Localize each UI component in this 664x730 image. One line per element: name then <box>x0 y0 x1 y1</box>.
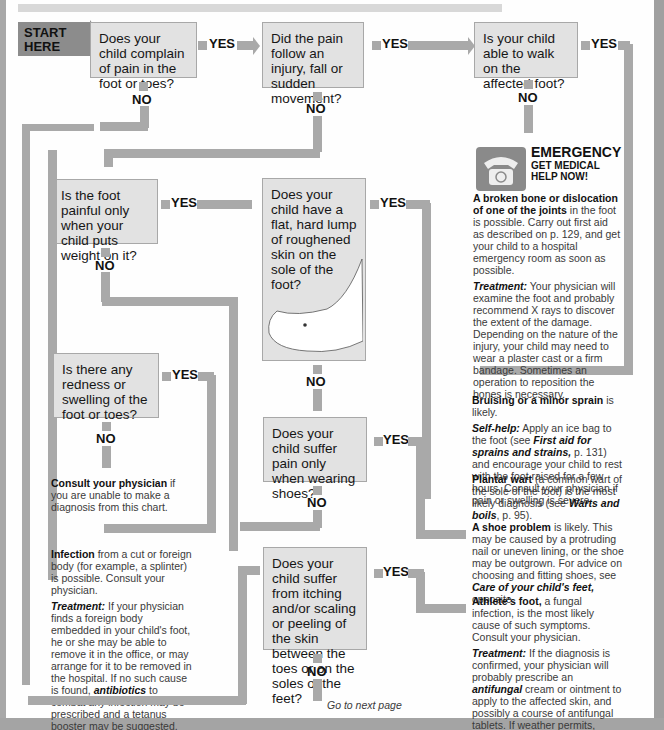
question-q7: Does your child suffer pain only when we… <box>263 417 367 482</box>
arrow-q2-no <box>313 116 322 152</box>
foot-sole-illustration <box>267 259 363 359</box>
selfhelp-label: Self-help: <box>472 422 520 434</box>
treatment-label: Treatment: <box>51 600 105 612</box>
subtitle-line: HELP NOW! <box>531 171 600 182</box>
yes-label: YES <box>209 36 235 51</box>
question-q4: Is the foot painful only when your child… <box>52 179 158 244</box>
yes-marker <box>370 200 379 209</box>
yes-label: YES <box>172 367 198 382</box>
yes-marker <box>162 372 171 381</box>
treatment-em: antifungal <box>472 683 522 695</box>
treatment-text: If your physician finds a foreign body e… <box>51 600 192 696</box>
lead-bold: Consult your physician <box>51 477 167 489</box>
yes-marker <box>198 41 207 50</box>
lead-bold: Plantar wart <box>472 473 532 485</box>
no-marker <box>313 92 322 101</box>
lead-bold: A shoe problem <box>472 521 551 533</box>
arrow-bottom-loop-up <box>238 570 247 704</box>
go-to-next-page: Go to next page <box>327 699 402 711</box>
question-text: Is the foot painful only when your child… <box>61 188 137 263</box>
lead-bold: Infection <box>51 548 95 560</box>
no-label: NO <box>307 664 327 679</box>
no-marker <box>313 654 322 663</box>
arrow-q1-q2 <box>237 41 253 50</box>
yes-marker <box>374 437 383 446</box>
no-marker <box>313 365 322 374</box>
page-edge-right <box>654 0 664 730</box>
yes-label: YES <box>380 195 406 210</box>
yes-label: YES <box>383 432 409 447</box>
lead-bold: Bruising or a minor sprain <box>472 394 603 406</box>
no-marker <box>313 486 322 495</box>
arrow-q1-no-left2 <box>22 124 94 131</box>
question-q5: Does your child have a flat, hard lump o… <box>262 178 366 361</box>
emergency-title: EMERGENCY <box>531 144 621 160</box>
question-q3: Is your child able to walk on the affect… <box>474 22 578 78</box>
question-q2: Did the pain follow an injury, fall or s… <box>262 22 364 88</box>
arrow-q2-no-down <box>104 149 113 167</box>
arrow-q2-no-left <box>104 149 320 158</box>
arrow-q3-no <box>524 105 533 133</box>
no-marker <box>139 82 148 91</box>
arrow-q1-no-left <box>100 122 148 131</box>
treatment-text: Your physician will examine the foot and… <box>473 280 618 400</box>
no-label: NO <box>306 101 326 116</box>
arrow-bottom-loop <box>28 696 246 705</box>
arrow-q5-no <box>313 389 322 411</box>
arrow-q7-no-left <box>240 522 320 531</box>
no-marker <box>102 422 111 431</box>
flowchart-page: START HERE Does your child complain of p… <box>0 0 664 730</box>
emergency-text: A broken bone or dislocation of one of t… <box>473 192 621 404</box>
here-label: HERE <box>24 40 90 54</box>
arrow-to-shoe <box>416 530 466 539</box>
yes-label: YES <box>383 564 409 579</box>
start-here-marker: START HERE <box>18 22 90 56</box>
no-label: NO <box>307 495 327 510</box>
yes-label: YES <box>171 195 197 210</box>
arrow-loop-top <box>102 297 238 306</box>
question-text: Is there any redness or swelling of the … <box>62 362 148 422</box>
treatment-label: Treatment: <box>472 647 526 659</box>
emergency-subtitle: GET MEDICALHELP NOW! <box>531 160 600 182</box>
header-rule <box>18 4 502 12</box>
no-label: NO <box>95 258 115 273</box>
arrow-q6-no <box>102 446 111 468</box>
yes-label: YES <box>591 36 617 51</box>
question-text: Did the pain follow an injury, fall or s… <box>271 31 343 106</box>
no-label: NO <box>306 374 326 389</box>
start-label: START <box>24 26 90 40</box>
yes-marker <box>374 569 383 578</box>
subtitle-line: GET MEDICAL <box>531 160 600 171</box>
arrow-loop-right <box>229 297 238 551</box>
outcome-athlete: Athlete's foot, a fungal infection, is t… <box>472 595 624 730</box>
question-q1: Does your child complain of pain in the … <box>90 22 197 78</box>
arrowhead <box>253 37 260 55</box>
no-marker <box>101 248 110 257</box>
lead-bold: Athlete's foot, <box>472 595 542 607</box>
arrow-q2-q3 <box>408 41 470 50</box>
reference: Care of your child's feet, <box>472 581 594 593</box>
arrow-q6-yes-left <box>104 524 216 533</box>
arrow-to-athlete <box>416 604 466 613</box>
treatment-em: antibiotics <box>94 684 147 696</box>
arrow-q4-q5 <box>197 200 252 209</box>
outcome-consult: Consult your physician if you are unable… <box>51 477 191 517</box>
arrow-left-rail-outer <box>22 130 30 685</box>
arrow-q3-yes-rail <box>624 44 633 374</box>
question-q6: Is there any redness or swelling of the … <box>53 353 159 418</box>
yes-marker <box>581 41 590 50</box>
telephone-icon <box>476 147 526 191</box>
page-edge-left <box>0 0 6 730</box>
yes-label: YES <box>382 36 408 51</box>
yes-marker <box>161 200 170 209</box>
no-label: NO <box>518 90 538 105</box>
arrow-q6-yes-rail <box>207 375 216 525</box>
question-q8: Does your child suffer from itching and/… <box>263 547 367 650</box>
no-label: NO <box>96 431 116 446</box>
arrow-q7-yes-rail <box>416 440 425 536</box>
arrow-q8-no <box>313 679 322 701</box>
no-label: NO <box>132 92 152 107</box>
yes-marker <box>372 41 381 50</box>
lead-text: , p. 95). <box>497 509 533 521</box>
outcome-wart: Plantar wart (a common wart of the sole … <box>472 473 624 525</box>
